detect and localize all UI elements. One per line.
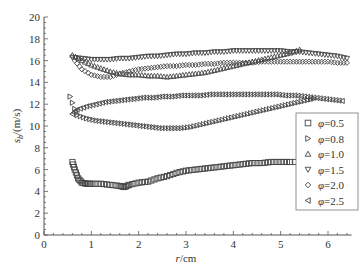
y-tick-label: 8 <box>35 142 41 154</box>
series-1 <box>68 94 316 131</box>
y-tick-label: 2 <box>35 207 41 219</box>
square-marker-icon <box>256 160 261 165</box>
x-tick-label: 2 <box>136 238 142 250</box>
legend-label: φ=2.5 <box>318 195 345 207</box>
x-tick-label: 0 <box>41 238 47 250</box>
legend-label: φ=1.5 <box>318 164 345 176</box>
diamond-marker-icon <box>77 64 82 69</box>
x-tick-label: 5 <box>278 238 284 250</box>
legend: φ=0.5φ=0.8φ=1.0φ=1.5φ=2.0φ=2.5 <box>296 113 358 210</box>
triangle-right-marker-icon <box>81 115 86 120</box>
legend-label: φ=2.0 <box>318 179 345 191</box>
series-0 <box>70 159 307 189</box>
square-marker-icon <box>281 159 286 164</box>
y-tick-label: 14 <box>29 76 41 88</box>
square-marker-icon <box>284 159 289 164</box>
square-marker-icon <box>95 181 100 186</box>
y-tick-label: 10 <box>29 120 41 132</box>
x-tick-label: 1 <box>89 238 95 250</box>
y-tick-label: 12 <box>29 98 40 110</box>
x-tick-label: 3 <box>183 238 189 250</box>
triangle-right-marker-icon <box>78 114 83 119</box>
square-marker-icon <box>272 159 277 164</box>
x-tick-label: 4 <box>231 238 237 250</box>
y-tick-label: 0 <box>35 229 41 241</box>
y-tick-label: 20 <box>29 11 41 23</box>
y-tick-label: 18 <box>29 33 41 45</box>
x-tick-label: 6 <box>325 238 331 250</box>
legend-label: φ=0.8 <box>318 133 345 145</box>
legend-label: φ=0.5 <box>318 117 345 129</box>
square-marker-icon <box>278 159 283 164</box>
y-tick-label: 6 <box>35 164 41 176</box>
legend-label: φ=1.0 <box>318 148 345 160</box>
diamond-marker-icon <box>75 61 80 66</box>
y-axis-label: sb/(m/s) <box>10 108 25 143</box>
chart-canvas: 012345602468101214161820 φ=0.5φ=0.8φ=1.0… <box>0 0 362 273</box>
x-axis-label: r/cm <box>176 252 197 264</box>
triangle-right-marker-icon <box>70 100 75 105</box>
y-tick-label: 16 <box>29 55 41 67</box>
square-marker-icon <box>275 159 280 164</box>
y-tick-label: 4 <box>35 185 41 197</box>
square-marker-icon <box>253 160 258 165</box>
triangle-right-marker-icon <box>68 94 73 99</box>
